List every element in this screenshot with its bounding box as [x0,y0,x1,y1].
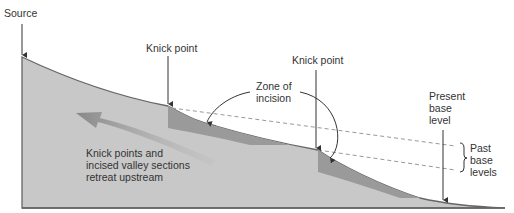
retreat-label-line2: incised valley sections [86,159,190,171]
present-label-line3: level [429,114,451,126]
zone-label-line2: incision [256,92,291,104]
past-label-line2: base [470,154,493,166]
knick-point-diagram: Source Knick point Knick point Zone of i… [0,0,514,213]
knick-point-2-label: Knick point [292,54,343,66]
present-label-line2: base [429,102,452,114]
zone-label-line1: Zone of [256,80,292,92]
source-label: Source [4,7,37,19]
present-label-line1: Present [429,90,465,102]
past-label-line1: Past [470,142,491,154]
past-levels-brace [460,143,467,172]
past-label-line3: levels [470,166,497,178]
retreat-label-line1: Knick points and [86,147,163,159]
retreat-label-line3: retreat upstream [86,171,163,183]
knick-point-1-label: Knick point [146,42,197,54]
